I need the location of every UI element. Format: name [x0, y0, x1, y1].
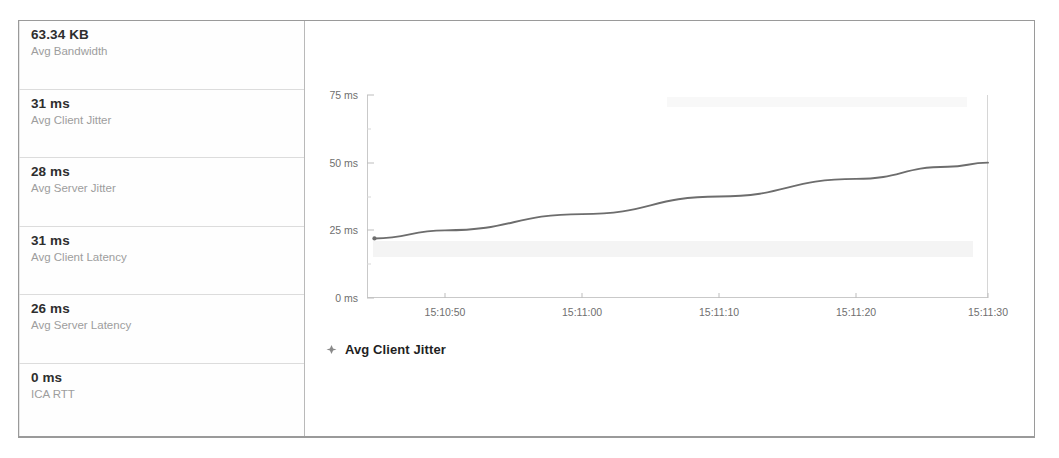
screenshot-root: 63.34 KBAvg Bandwidth31 msAvg Client Jit… — [0, 0, 1059, 458]
metric-row: 31 msAvg Client Jitter — [19, 90, 304, 159]
series-start-marker — [372, 236, 376, 240]
y-axis-tick-label: 0 ms — [335, 292, 367, 304]
metric-row: 28 msAvg Server Jitter — [19, 158, 304, 227]
metric-value: 28 ms — [31, 164, 304, 180]
series-avg-client-jitter — [367, 95, 988, 298]
diamond-marker-icon — [325, 343, 338, 356]
y-axis-tick-label: 50 ms — [329, 157, 367, 169]
metric-value: 0 ms — [31, 370, 304, 386]
metric-label: Avg Server Jitter — [31, 181, 304, 196]
metric-label: Avg Server Latency — [31, 318, 304, 333]
metrics-chart-panel: 63.34 KBAvg Bandwidth31 msAvg Client Jit… — [18, 20, 1035, 438]
metric-label: Avg Client Latency — [31, 250, 304, 265]
line-chart-plot-area: 0 ms25 ms50 ms75 ms 15:10:5015:11:0015:1… — [367, 95, 988, 298]
metrics-sidebar: 63.34 KBAvg Bandwidth31 msAvg Client Jit… — [19, 21, 305, 436]
chart-legend: Avg Client Jitter — [325, 342, 446, 357]
metric-label: Avg Client Jitter — [31, 113, 304, 128]
metric-row: 63.34 KBAvg Bandwidth — [19, 21, 304, 90]
metric-value: 31 ms — [31, 233, 304, 249]
x-axis-tick-label: 15:10:50 — [425, 306, 466, 318]
metric-row: 0 msICA RTT — [19, 364, 304, 433]
metric-value: 63.34 KB — [31, 27, 304, 43]
metric-row: 26 msAvg Server Latency — [19, 295, 304, 364]
metric-label: Avg Bandwidth — [31, 44, 304, 59]
chart-panel: 0 ms25 ms50 ms75 ms 15:10:5015:11:0015:1… — [305, 21, 1034, 436]
series-line — [374, 163, 988, 239]
metric-row: 31 msAvg Client Latency — [19, 227, 304, 296]
x-axis-tick-label: 15:11:30 — [968, 306, 1008, 318]
x-axis-tick-label: 15:11:20 — [836, 306, 876, 318]
metric-value: 26 ms — [31, 301, 304, 317]
metric-label: ICA RTT — [31, 387, 304, 402]
y-axis-tick-label: 75 ms — [329, 89, 367, 101]
x-axis-tick-label: 15:11:10 — [699, 306, 739, 318]
legend-label: Avg Client Jitter — [345, 342, 446, 357]
metric-value: 31 ms — [31, 96, 304, 112]
x-axis-tick-label: 15:11:00 — [562, 306, 602, 318]
y-axis-tick-label: 25 ms — [329, 224, 367, 236]
